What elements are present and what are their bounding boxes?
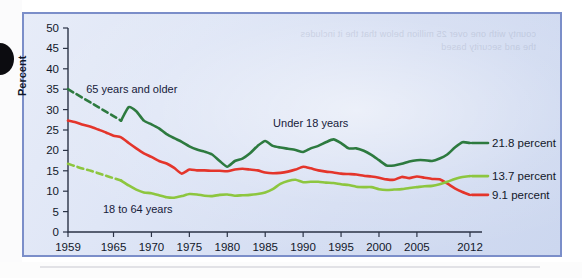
y-axis-tick-label: 15 [46, 165, 59, 177]
end-label: 9.1 percent [492, 189, 550, 201]
x-axis-tick-label: 1975 [177, 241, 203, 253]
y-axis-tick-label: 20 [46, 144, 59, 156]
x-axis-tick-label: 2012 [457, 241, 483, 253]
y-axis-tick-label: 5 [53, 206, 59, 218]
y-axis-tick-label: 45 [46, 42, 59, 54]
x-axis-tick-label: 2005 [404, 241, 430, 253]
y-axis-tick-label: 10 [46, 185, 59, 197]
y-axis-tick-label: 40 [46, 63, 59, 75]
x-axis-tick-label: 1995 [328, 241, 354, 253]
chart-plot: 0510152025303540455019591965197019751980… [0, 0, 582, 278]
x-axis-tick-label: 1970 [139, 241, 165, 253]
series-annotation: 65 years and older [86, 83, 177, 95]
series-annotation: Under 18 years [273, 117, 349, 129]
y-axis-tick-label: 25 [46, 124, 59, 136]
x-axis-tick-label: 1959 [55, 241, 81, 253]
x-axis-tick-label: 1990 [290, 241, 316, 253]
series-under-18-years [68, 89, 470, 167]
x-axis-tick-label: 1985 [252, 241, 278, 253]
y-axis-tick-label: 30 [46, 104, 59, 116]
y-axis-title: Percent [16, 56, 28, 96]
y-axis-tick-label: 35 [46, 83, 59, 95]
end-label: 21.8 percent [492, 137, 557, 149]
x-axis-tick-label: 2000 [366, 241, 392, 253]
series-solid-segment [121, 176, 470, 198]
x-axis-tick-label: 1965 [101, 241, 127, 253]
series-65-years-and-older [68, 164, 470, 198]
y-axis-tick-label: 50 [46, 22, 59, 34]
end-label: 13.7 percent [492, 170, 557, 182]
series-dashed-segment [68, 164, 121, 181]
poverty-rate-figure: county with one over 25 million below th… [0, 0, 582, 278]
x-axis-tick-label: 1980 [214, 241, 240, 253]
y-axis-tick-label: 0 [53, 226, 59, 238]
series-annotation: 18 to 64 years [103, 203, 173, 215]
